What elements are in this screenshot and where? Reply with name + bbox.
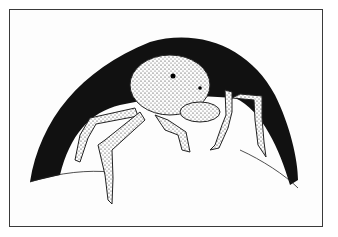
spider-illustration	[0, 0, 338, 237]
spider-eye	[171, 74, 176, 79]
spider-jaw	[180, 102, 220, 122]
